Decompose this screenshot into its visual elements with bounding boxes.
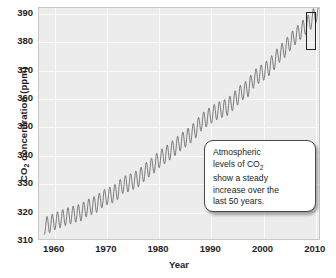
y-axis-tick-label: 380 [0, 35, 33, 46]
x-axis-tick-label: 2000 [238, 243, 288, 254]
x-axis-tick-label: 1990 [185, 243, 235, 254]
y-axis-tick-label: 330 [0, 177, 33, 188]
x-axis-tick-label: 1970 [81, 243, 131, 254]
y-axis-tick-label: 390 [0, 7, 33, 18]
x-axis-tick-label: 1960 [29, 243, 79, 254]
callout-line-3: show a steady [213, 173, 308, 185]
x-axis-title: Year [38, 259, 320, 270]
final-peak-highlight-box [306, 12, 316, 50]
callout-line-2-text: levels of CO [213, 159, 260, 169]
callout-line-1: Atmospheric [213, 147, 308, 159]
y-axis-tick-label: 350 [0, 120, 33, 131]
x-axis-tick-label: 2010 [290, 243, 336, 254]
callout-line-5: last 50 years. [213, 196, 308, 208]
co2-concentration-chart: CO2 concentration (ppm) 3103203303403503… [0, 0, 336, 278]
trend-callout: Atmospheric levels of CO2 show a steady … [204, 140, 316, 212]
y-axis-tick-label: 320 [0, 206, 33, 217]
x-axis-tick-label: 1980 [133, 243, 183, 254]
callout-line-4: increase over the [213, 185, 308, 197]
y-axis-tick-label: 370 [0, 64, 33, 75]
y-axis-tick-label: 360 [0, 92, 33, 103]
y-axis-tick-label: 340 [0, 149, 33, 160]
callout-line-2-subscript: 2 [260, 163, 264, 170]
callout-line-2: levels of CO2 [213, 159, 308, 173]
